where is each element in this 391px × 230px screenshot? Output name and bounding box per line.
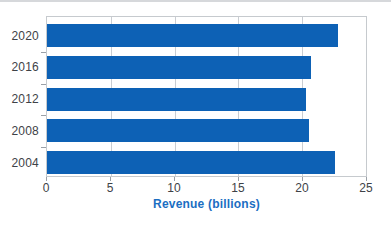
- y-tick-label: 2004: [1, 156, 39, 170]
- y-axis-tick: [41, 115, 46, 116]
- bar-2012: [47, 88, 306, 111]
- x-tick-label: 10: [167, 181, 180, 195]
- bar-2008: [47, 119, 309, 142]
- bar-2020: [47, 24, 338, 47]
- x-tick-label: 5: [107, 181, 114, 195]
- revenue-bar-chart: 202020162012200820040510152025 Revenue (…: [0, 0, 391, 230]
- y-axis-tick: [41, 84, 46, 85]
- x-axis-title: Revenue (billions): [46, 197, 367, 211]
- y-axis-tick: [41, 147, 46, 148]
- y-tick-label: 2012: [1, 92, 39, 106]
- x-tick-label: 15: [231, 181, 244, 195]
- y-tick-label: 2008: [1, 124, 39, 138]
- y-tick-label: 2016: [1, 60, 39, 74]
- y-axis-tick: [41, 52, 46, 53]
- x-tick-label: 20: [295, 181, 308, 195]
- x-tick-label: 25: [359, 181, 372, 195]
- bar-2016: [47, 56, 311, 79]
- x-tick-label: 0: [43, 181, 50, 195]
- bar-2004: [47, 151, 335, 174]
- y-tick-label: 2020: [1, 29, 39, 43]
- plot-area: [46, 16, 367, 177]
